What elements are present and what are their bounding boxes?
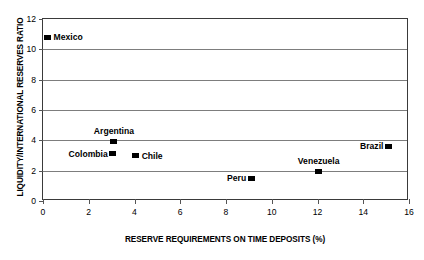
y-tick-label: 12 <box>26 14 36 24</box>
x-tick-label: 0 <box>41 207 46 217</box>
data-point-marker <box>109 151 116 156</box>
data-point-marker <box>315 169 322 174</box>
y-tick-label: 6 <box>31 105 36 115</box>
data-point-marker <box>248 176 255 181</box>
chart-figure: LIQUIDITY/INTERNATIONAL RESERVES RATIO 0… <box>0 0 424 260</box>
y-tick-label: 0 <box>31 196 36 206</box>
y-tick-label: 2 <box>31 166 36 176</box>
x-tick-mark <box>272 199 273 204</box>
x-tick-label: 12 <box>313 207 323 217</box>
gridline <box>43 110 407 111</box>
x-tick-mark <box>43 199 44 204</box>
x-tick-label: 8 <box>224 207 229 217</box>
y-tick-label: 4 <box>31 135 36 145</box>
x-tick-mark <box>226 199 227 204</box>
y-tick-mark <box>39 140 43 141</box>
x-tick-mark <box>89 199 90 204</box>
x-tick-label: 6 <box>178 207 183 217</box>
x-tick-mark <box>180 199 181 204</box>
plot-area: 024681012 0246810121416 MexicoArgentinaC… <box>42 18 408 200</box>
data-point-label: Peru <box>227 173 246 183</box>
data-point-marker <box>44 35 51 40</box>
gridline <box>43 49 407 50</box>
y-tick-mark <box>39 110 43 111</box>
data-point-label: Mexico <box>54 32 83 42</box>
gridline <box>43 140 407 141</box>
x-tick-label: 2 <box>86 207 91 217</box>
data-point-label: Brazil <box>360 141 383 151</box>
x-tick-label: 10 <box>267 207 277 217</box>
gridline <box>43 80 407 81</box>
y-tick-label: 10 <box>26 44 36 54</box>
x-tick-mark <box>318 199 319 204</box>
x-axis-title: RESERVE REQUIREMENTS ON TIME DEPOSITS (%… <box>42 235 408 244</box>
y-tick-mark <box>39 19 43 20</box>
y-tick-label: 8 <box>31 75 36 85</box>
x-tick-label: 4 <box>132 207 137 217</box>
x-tick-label: 14 <box>358 207 368 217</box>
x-tick-label: 16 <box>404 207 414 217</box>
x-tick-mark <box>409 199 410 204</box>
y-tick-mark <box>39 80 43 81</box>
data-point-label: Argentina <box>94 126 134 136</box>
data-point-label: Chile <box>142 151 163 161</box>
data-point-label: Venezuela <box>298 156 340 166</box>
data-point-marker <box>385 144 392 149</box>
data-point-marker <box>132 153 139 158</box>
y-axis-title: LIQUIDITY/INTERNATIONAL RESERVES RATIO <box>14 2 28 212</box>
x-tick-mark <box>135 199 136 204</box>
gridline <box>43 171 407 172</box>
y-tick-mark <box>39 171 43 172</box>
data-point-label: Colombia <box>69 149 108 159</box>
y-tick-mark <box>39 49 43 50</box>
data-point-marker <box>110 139 117 144</box>
x-tick-mark <box>363 199 364 204</box>
